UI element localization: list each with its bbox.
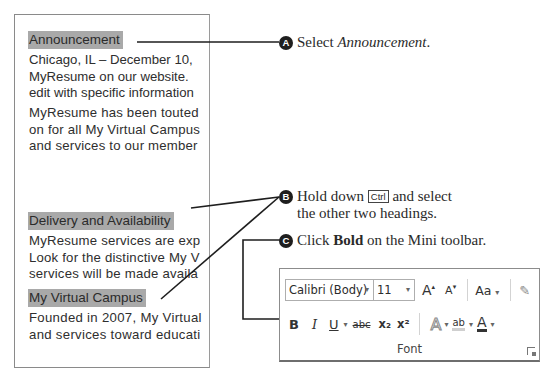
font-name-dropdown[interactable]: Calibri (Body)▾ bbox=[285, 279, 374, 301]
strikethrough-button[interactable]: abc bbox=[353, 319, 371, 330]
step-a: ASelect Announcement. bbox=[279, 34, 430, 51]
chevron-down-icon[interactable]: ▾ bbox=[444, 320, 448, 329]
mini-toolbar: Calibri (Body)▾ 11▾ A▴ A▾ Aa ▾ ✎ B I U ▾… bbox=[279, 268, 540, 362]
chevron-down-icon[interactable]: ▾ bbox=[344, 320, 348, 329]
bold-button[interactable]: B bbox=[289, 317, 299, 332]
underline-button[interactable]: U bbox=[329, 317, 339, 332]
grow-font-button[interactable]: A▴ bbox=[422, 282, 435, 298]
font-size-dropdown[interactable]: 11▾ bbox=[374, 279, 415, 301]
step-b: BHold down Ctrl and select the other two… bbox=[279, 188, 452, 222]
font-color-button[interactable]: A bbox=[477, 316, 487, 332]
step-c: CClick Bold on the Mini toolbar. bbox=[279, 232, 486, 249]
step-badge-b: B bbox=[279, 190, 293, 204]
chevron-down-icon: ▾ bbox=[406, 280, 410, 300]
separator bbox=[467, 279, 468, 301]
increase-icon: ▴ bbox=[432, 283, 436, 291]
ctrl-key: Ctrl bbox=[368, 190, 389, 203]
chevron-down-icon[interactable]: ▾ bbox=[469, 320, 473, 329]
subscript-button[interactable]: x₂ bbox=[379, 317, 391, 331]
callout-line-b1 bbox=[191, 197, 279, 208]
step-badge-a: A bbox=[279, 36, 293, 50]
step-badge-c: C bbox=[279, 234, 293, 248]
change-case-button[interactable]: Aa ▾ bbox=[475, 283, 499, 298]
dialog-launcher-icon[interactable] bbox=[527, 347, 535, 355]
chevron-down-icon: ▾ bbox=[495, 288, 499, 297]
font-group-label: Font bbox=[280, 342, 539, 356]
chevron-down-icon: ▾ bbox=[365, 280, 369, 300]
text-effects-button[interactable]: A bbox=[431, 315, 442, 334]
shrink-font-button[interactable]: A▾ bbox=[445, 283, 456, 297]
format-painter-icon[interactable]: ✎ bbox=[519, 283, 530, 298]
callout-line-c bbox=[243, 240, 283, 319]
decrease-icon: ▾ bbox=[453, 283, 457, 291]
separator bbox=[510, 279, 511, 301]
callout-line-b2 bbox=[161, 197, 279, 299]
italic-button[interactable]: I bbox=[312, 317, 317, 332]
superscript-button[interactable]: x² bbox=[397, 317, 409, 331]
chevron-down-icon[interactable]: ▾ bbox=[491, 320, 495, 329]
separator bbox=[419, 313, 420, 335]
highlight-color-button[interactable]: ab bbox=[452, 318, 464, 331]
